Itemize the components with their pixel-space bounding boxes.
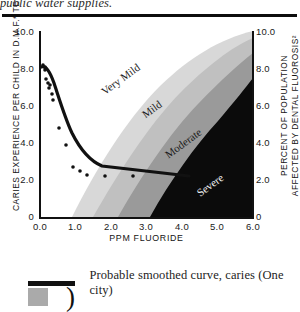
plot-area: Very Mild Mild Moderate Severe — [40, 31, 253, 217]
x-tick-4: 4.0 — [165, 221, 199, 232]
figure-caption: public water supplies. — [0, 0, 299, 10]
legend-box-swatch — [28, 288, 48, 306]
chart-figure: public water supplies. — [0, 0, 299, 303]
legend-item-band: ) — [28, 288, 75, 306]
legend-brace: ) — [66, 288, 75, 306]
y-axis-right-title: PERCENT OF POPULATION AFFECTED BY DENTAL… — [279, 18, 300, 214]
x-axis-title: PPM FLUORIDE — [40, 233, 253, 243]
x-axis — [39, 217, 254, 219]
y-axis-right-title-line2: AFFECTED BY DENTAL FLUOROSIS² — [289, 18, 300, 214]
x-tick-5: 5.0 — [200, 221, 234, 232]
legend-curve-label: Probable smoothed curve, caries (One cit… — [89, 268, 299, 298]
x-tick-1: 1.0 — [58, 221, 92, 232]
x-tick-6: 6.0 — [236, 221, 270, 232]
y-axis-left-title: CARIES EXPERIENCE PER CHILD IN D.M.F.* T… — [11, 15, 21, 211]
x-tick-0: 0.0 — [23, 221, 57, 232]
y-axis-left — [39, 31, 41, 219]
x-tick-3: 3.0 — [129, 221, 163, 232]
y-axis-right — [252, 31, 254, 219]
fluorosis-bands — [40, 31, 253, 217]
x-tick-2: 2.0 — [94, 221, 128, 232]
y-axis-right-title-line1: PERCENT OF POPULATION — [279, 18, 290, 214]
horizontal-rule — [2, 14, 297, 17]
